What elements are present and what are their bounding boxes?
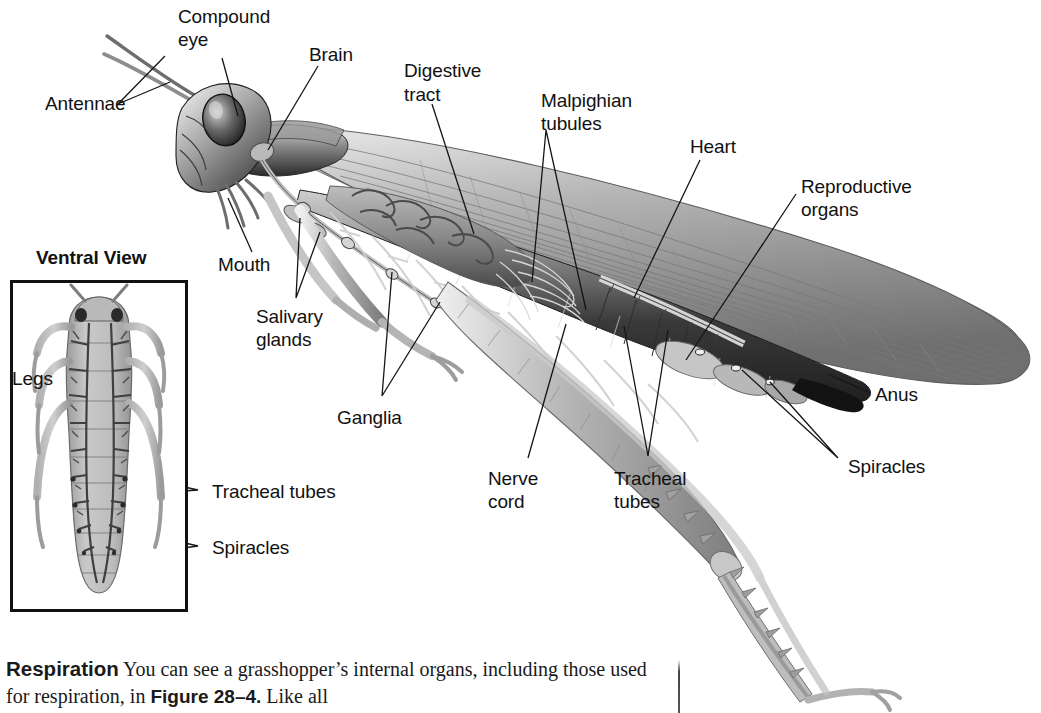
label-compound-eye-line1: Compound <box>178 6 270 28</box>
grasshopper-lateral-drawing <box>104 36 1030 710</box>
paragraph-part2: Like all <box>261 685 328 707</box>
label-spiracles-right: Spiracles <box>848 456 925 478</box>
label-digestive-tract-line1: Digestive <box>404 60 481 82</box>
label-nerve-cord-line2: cord <box>488 491 525 513</box>
label-anus: Anus <box>875 384 918 406</box>
label-tracheal-tubes-inset: Tracheal tubes <box>212 481 336 503</box>
label-salivary-line2: glands <box>256 329 311 351</box>
label-mouth: Mouth <box>218 254 270 276</box>
label-malpighian-line2: tubules <box>541 113 602 135</box>
label-malpighian-line1: Malpighian <box>541 90 632 112</box>
label-digestive-tract-line2: tract <box>404 84 440 106</box>
label-nerve-cord-line1: Nerve <box>488 468 538 490</box>
label-reproductive-line1: Reproductive <box>801 176 912 198</box>
label-compound-eye-line2: eye <box>178 29 208 51</box>
label-tracheal-tubes-line1: Tracheal <box>614 468 686 490</box>
label-reproductive-line2: organs <box>801 199 859 221</box>
label-brain: Brain <box>309 44 353 66</box>
ventral-view-box <box>10 280 188 612</box>
tibial-spines <box>730 567 804 678</box>
label-antennae: Antennae <box>45 93 126 115</box>
ventral-view-drawing <box>13 283 185 609</box>
label-legs: Legs <box>12 368 53 390</box>
hind-tarsus <box>808 691 872 700</box>
label-heart: Heart <box>690 136 736 158</box>
ventral-view-title: Ventral View <box>36 247 146 269</box>
run-in-heading: Respiration <box>6 657 119 680</box>
label-ganglia: Ganglia <box>337 407 402 429</box>
label-tracheal-tubes-line2: tubes <box>614 491 660 513</box>
column-divider-rule <box>678 660 680 713</box>
body-paragraph: Respiration You can see a grasshopper’s … <box>6 655 666 710</box>
figure-reference: Figure 28–4. <box>150 686 261 707</box>
label-salivary-line1: Salivary <box>256 306 323 328</box>
leader-mouth <box>228 198 252 252</box>
label-spiracles-inset: Spiracles <box>212 537 289 559</box>
